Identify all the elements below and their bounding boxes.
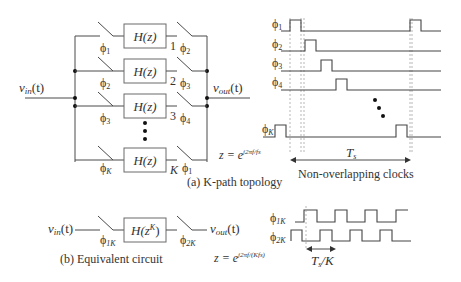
period-label: Ts [346, 145, 356, 161]
arrow-left-icon [306, 246, 312, 252]
switch-icon [98, 92, 113, 106]
switch-icon [177, 22, 192, 36]
path-index: 1 [170, 39, 176, 53]
timing-diagram: ϕ1 ϕ2 ϕ3 ϕ4 ϕK Ts Non-overlapping clocks [262, 17, 441, 181]
block-label: H(zK) [130, 223, 159, 238]
clock-label: ϕK [100, 161, 112, 176]
kpath-circuit: vin(t) vout(t) H(z) ϕ1 1 ϕ2 [19, 22, 282, 189]
block-label: H(z) [132, 99, 156, 114]
junction-dot [73, 96, 77, 100]
switch-icon [98, 22, 113, 36]
ellipsis-dots [373, 98, 385, 118]
path-3: H(z) ϕ3 3 ϕ4 [75, 92, 207, 126]
clock-label-phi1k: ϕ1K [270, 211, 286, 226]
clock-label: ϕ1 [182, 161, 192, 176]
path-k: H(z) ϕK K ϕ1 [75, 146, 207, 177]
clock-label-phi2k: ϕ2K [270, 230, 286, 245]
path-index: 3 [170, 109, 176, 123]
switch-icon [98, 216, 113, 230]
switch-icon [98, 57, 113, 71]
z-equation-equivalent: z = ej2πf/(Kfs) [213, 251, 266, 265]
vin-label: vin(t) [48, 221, 73, 237]
clock-label-phi4: ϕ4 [272, 75, 282, 90]
clock-label-phi3: ϕ3 [272, 56, 282, 71]
caption-kpath: (a) K-path topology [187, 175, 282, 189]
arrow-right-icon [405, 157, 411, 163]
switch-icon [177, 146, 192, 160]
switch-icon [177, 57, 192, 71]
clock-label: ϕ2 [180, 41, 190, 56]
switch-icon [177, 92, 192, 106]
clock-label: ϕ1 [100, 41, 110, 56]
clock-waveform-phi3 [281, 60, 441, 71]
clock-label-phik: ϕK [262, 122, 274, 137]
caption-timing: Non-overlapping clocks [298, 167, 414, 181]
z-equation: z = ej2πf/fs [218, 148, 261, 162]
clock-label-phi2: ϕ2 [272, 37, 282, 52]
arrow-left-icon [290, 157, 296, 163]
block-label: H(z) [132, 153, 156, 168]
clock-waveform-phi4 [281, 79, 441, 90]
vin-label: vin(t) [19, 80, 44, 96]
vout-label: vout(t) [210, 221, 240, 237]
arrow-right-icon [330, 246, 336, 252]
switch-icon [98, 146, 113, 160]
equivalent-circuit: vin(t) H(zK) vout(t) ϕ1K ϕ2K (b) Equival… [48, 206, 411, 269]
block-label: H(z) [132, 29, 156, 44]
clock-label: ϕ2 [100, 76, 110, 91]
period-label: Ts/K [311, 253, 335, 269]
clock-label-phi1: ϕ1 [272, 17, 282, 32]
clock-label: ϕ4 [180, 111, 190, 126]
path-1: H(z) ϕ1 1 ϕ2 [75, 22, 207, 56]
clock-waveform-phi1k [295, 210, 408, 222]
junction-dot [205, 96, 209, 100]
switch-icon [177, 216, 192, 230]
ellipsis-dots [143, 121, 147, 141]
clock-waveform-phi1 [281, 20, 441, 31]
clock-waveform-phi2 [281, 40, 441, 51]
block-label: H(z) [132, 64, 156, 79]
clock-label: ϕ3 [100, 111, 110, 126]
vout-label: vout(t) [213, 80, 243, 96]
caption-equivalent: (b) Equivalent circuit [60, 252, 163, 266]
path-2: H(z) ϕ2 2 ϕ3 [75, 57, 207, 91]
path-index: K [169, 163, 179, 177]
clock-label: ϕ3 [180, 76, 190, 91]
clock-waveform-phi2k [291, 230, 411, 241]
clock-label: ϕ2K [180, 233, 196, 248]
path-index: 2 [170, 74, 176, 88]
k-path-diagram: vin(t) vout(t) H(z) ϕ1 1 ϕ2 [0, 0, 461, 282]
clock-label: ϕ1K [100, 233, 116, 248]
